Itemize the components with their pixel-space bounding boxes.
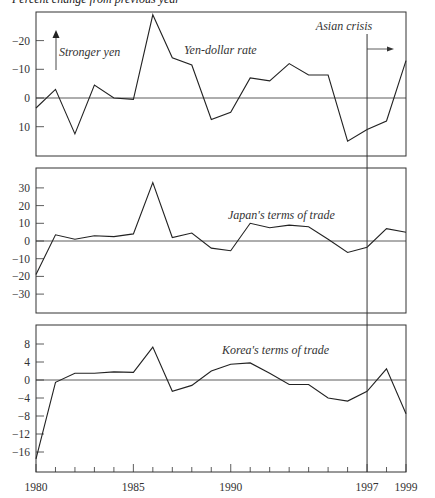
y-tick-label: −10 xyxy=(12,253,30,265)
y-tick-label: 30 xyxy=(19,182,31,194)
yen-dollar-panel: −20−10010Yen-dollar rate xyxy=(12,12,406,156)
stronger-yen-arrow-icon xyxy=(53,30,60,38)
korea-terms-panel: 840−4−8−12−16Korea's terms of trade xyxy=(12,325,406,472)
crisis-arrow-head-icon xyxy=(387,47,394,52)
y-tick-label: −20 xyxy=(12,270,30,282)
y-tick-label: 20 xyxy=(19,200,31,212)
panel-frame xyxy=(36,12,406,156)
stronger-yen-label: Stronger yen xyxy=(59,45,120,59)
y-tick-label: −8 xyxy=(18,410,30,422)
chart-canvas: −20−10010Yen-dollar rate3020100−10−20−30… xyxy=(0,0,435,498)
series-label: Korea's terms of trade xyxy=(221,343,330,357)
y-tick-label: 0 xyxy=(24,92,30,104)
x-tick-label: 1990 xyxy=(219,481,242,493)
x-tick-label: 1997 xyxy=(356,481,379,493)
y-tick-label: −10 xyxy=(12,63,30,75)
panel-frame xyxy=(36,168,406,313)
y-tick-label: 0 xyxy=(24,235,30,247)
y-tick-label: −4 xyxy=(18,392,30,404)
series-line xyxy=(36,347,406,459)
y-tick-label: −12 xyxy=(12,428,30,440)
y-tick-label: −30 xyxy=(12,288,30,300)
y-tick-label: 10 xyxy=(19,217,31,229)
y-tick-label: −20 xyxy=(12,35,30,47)
panel-frame xyxy=(36,325,406,472)
series-label: Japan's terms of trade xyxy=(228,208,336,222)
y-tick-label: −16 xyxy=(12,446,30,458)
series-line xyxy=(36,183,406,275)
series-line xyxy=(36,15,406,141)
y-tick-label: 8 xyxy=(24,338,30,350)
x-tick-label: 1980 xyxy=(25,481,48,493)
x-tick-label: 1999 xyxy=(395,481,418,493)
japan-terms-panel: 3020100−10−20−30Japan's terms of trade xyxy=(12,168,406,313)
series-label: Yen-dollar rate xyxy=(184,43,257,57)
y-tick-label: 0 xyxy=(24,374,30,386)
x-tick-label: 1985 xyxy=(122,481,145,493)
asian-crisis-label: Asian crisis xyxy=(315,19,373,33)
y-tick-label: 4 xyxy=(24,356,30,368)
y-tick-label: 10 xyxy=(19,121,31,133)
